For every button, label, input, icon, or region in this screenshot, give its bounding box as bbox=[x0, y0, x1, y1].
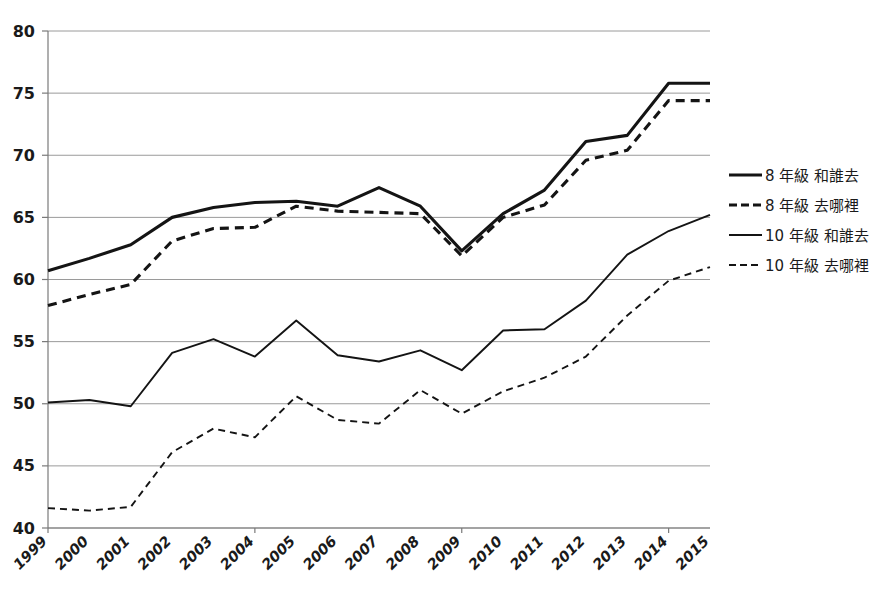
y-tick-label: 45 bbox=[13, 456, 35, 475]
x-tick-label: 2001 bbox=[93, 533, 133, 573]
x-tick-label: 2003 bbox=[176, 533, 216, 573]
legend-item-label: 8 年級 和誰去 bbox=[765, 167, 859, 185]
y-axis-tick-labels: 404550556065707580 bbox=[13, 22, 35, 538]
y-tick-label: 50 bbox=[13, 394, 35, 413]
y-tick-label: 70 bbox=[13, 146, 35, 165]
x-tick-label: 2008 bbox=[383, 533, 423, 573]
axes bbox=[42, 31, 710, 533]
line-chart-figure: 404550556065707580 199920002001200220032… bbox=[0, 0, 890, 593]
y-tick-label: 65 bbox=[13, 208, 35, 227]
y-tick-label: 60 bbox=[13, 270, 35, 289]
x-tick-label: 2010 bbox=[465, 533, 505, 573]
x-tick-label: 2012 bbox=[548, 533, 588, 573]
x-tick-label: 2014 bbox=[631, 533, 671, 573]
x-tick-label: 2005 bbox=[259, 533, 299, 573]
x-tick-label: 2007 bbox=[341, 532, 381, 572]
series-line-1 bbox=[48, 101, 710, 306]
series-line-2 bbox=[48, 215, 710, 406]
x-tick-label: 2004 bbox=[217, 533, 257, 573]
y-tick-label: 75 bbox=[13, 84, 35, 103]
legend-item-label: 10 年級 和誰去 bbox=[765, 227, 869, 245]
gridlines bbox=[48, 31, 710, 528]
x-tick-label: 2000 bbox=[52, 533, 92, 573]
x-tick-label: 2006 bbox=[300, 533, 340, 573]
x-axis-tick-labels: 1999200020012002200320042005200620072008… bbox=[10, 532, 712, 572]
x-tick-label: 2011 bbox=[507, 533, 547, 573]
data-series bbox=[48, 83, 710, 510]
legend-item-label: 10 年級 去哪裡 bbox=[765, 257, 869, 275]
x-tick-label: 2009 bbox=[424, 533, 464, 573]
chart-legend: 8 年級 和誰去8 年級 去哪裡10 年級 和誰去10 年級 去哪裡 bbox=[729, 167, 869, 275]
x-tick-label: 1999 bbox=[10, 533, 50, 573]
series-line-3 bbox=[48, 267, 710, 511]
series-line-0 bbox=[48, 83, 710, 271]
chart-canvas: 404550556065707580 199920002001200220032… bbox=[0, 0, 890, 593]
y-tick-label: 40 bbox=[13, 519, 35, 538]
y-tick-label: 55 bbox=[13, 332, 35, 351]
y-tick-label: 80 bbox=[13, 22, 35, 41]
x-tick-label: 2015 bbox=[672, 533, 712, 573]
legend-item-label: 8 年級 去哪裡 bbox=[765, 197, 859, 215]
x-tick-label: 2002 bbox=[134, 533, 174, 573]
x-tick-label: 2013 bbox=[590, 533, 630, 573]
